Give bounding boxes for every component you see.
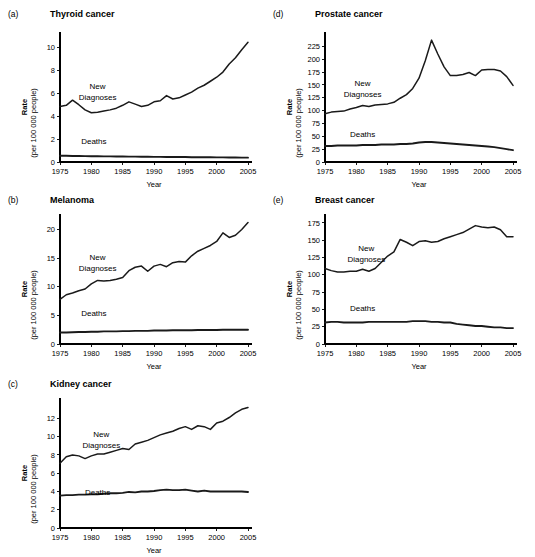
- y-tick-label: 175: [307, 68, 320, 77]
- x-tick-label: 1995: [177, 167, 194, 176]
- y-tick-label: 15: [47, 254, 55, 263]
- panel-letter-c: (c): [8, 379, 18, 389]
- y-tick-label: 50: [312, 132, 320, 141]
- panel-title-d: Prostate cancer: [315, 9, 383, 19]
- data-line-new-diagnoses: [60, 223, 248, 300]
- x-tick-label: 2000: [473, 349, 490, 358]
- y-tick-label: 10: [47, 43, 55, 52]
- data-line-new-diagnoses: [60, 407, 248, 463]
- y-tick-label: 2: [51, 135, 55, 144]
- x-tick-label: 1980: [83, 533, 100, 542]
- x-tick-label: 2005: [240, 167, 257, 176]
- x-tick-label: 1990: [146, 167, 163, 176]
- y-tick-label: 12: [47, 414, 55, 423]
- x-tick-label: 1985: [114, 533, 131, 542]
- x-axis-title: Year: [411, 180, 427, 189]
- panel-letter-d: (d): [273, 9, 284, 19]
- y-axis-title: Rate: [20, 281, 29, 297]
- y-tick-label: 0: [316, 158, 320, 167]
- y-tick-label: 10: [47, 432, 55, 441]
- data-line-new-diagnoses: [60, 42, 248, 112]
- chart-panel-b: (b)Melanoma05101520197519801985199019952…: [8, 194, 262, 382]
- series-label-new-diagnoses-line2: Diagnoses: [347, 255, 385, 264]
- panel-letter-b: (b): [8, 195, 19, 205]
- panel-title-b: Melanoma: [50, 195, 95, 205]
- panel-letter-e: (e): [273, 195, 284, 205]
- y-tick-label: 225: [307, 42, 320, 51]
- y-axis-subtitle: (per 100 000 people): [29, 88, 38, 158]
- y-tick-label: 25: [312, 145, 320, 154]
- data-line-deaths: [325, 142, 513, 150]
- x-tick-label: 1975: [52, 167, 69, 176]
- x-tick-label: 1990: [146, 349, 163, 358]
- data-line-deaths: [325, 321, 513, 328]
- x-tick-label: 2000: [208, 167, 225, 176]
- x-tick-label: 1995: [177, 349, 194, 358]
- panel-title-e: Breast cancer: [315, 195, 375, 205]
- y-tick-label: 0: [51, 340, 55, 349]
- data-line-deaths: [60, 156, 248, 158]
- chart-panel-a: (a)Thyroid cancer02468101975198019851990…: [8, 8, 262, 200]
- x-tick-label: 1980: [83, 349, 100, 358]
- x-tick-label: 1975: [52, 533, 69, 542]
- x-tick-label: 1980: [83, 167, 100, 176]
- y-tick-label: 20: [47, 225, 55, 234]
- y-axis-title: Rate: [285, 281, 294, 297]
- y-tick-label: 150: [307, 81, 320, 90]
- x-tick-label: 2000: [208, 349, 225, 358]
- data-line-deaths: [60, 330, 248, 333]
- y-tick-label: 75: [312, 288, 320, 297]
- y-tick-label: 75: [312, 119, 320, 128]
- series-label-deaths: Deaths: [350, 304, 375, 313]
- series-label-deaths: Deaths: [81, 137, 106, 146]
- y-tick-label: 8: [51, 451, 55, 460]
- series-label-new-diagnoses-line1: New: [355, 79, 371, 88]
- y-tick-label: 25: [312, 322, 320, 331]
- chart-panel-c: (c)Kidney cancer024681012197519801985199…: [8, 378, 262, 557]
- x-tick-label: 2005: [505, 349, 522, 358]
- data-line-new-diagnoses: [325, 40, 513, 114]
- y-axis-subtitle: (per 100 000 people): [294, 88, 303, 158]
- x-tick-label: 1980: [348, 349, 365, 358]
- y-tick-label: 6: [51, 469, 55, 478]
- y-tick-label: 100: [307, 106, 320, 115]
- y-axis-title: Rate: [285, 99, 294, 115]
- x-tick-label: 1985: [114, 349, 131, 358]
- y-axis-title: Rate: [20, 99, 29, 115]
- y-axis-subtitle: (per 100 000 people): [29, 454, 38, 524]
- series-label-new-diagnoses-line1: New: [90, 253, 106, 262]
- x-tick-label: 1975: [317, 167, 334, 176]
- y-tick-label: 200: [307, 55, 320, 64]
- x-tick-label: 1990: [146, 533, 163, 542]
- series-label-new-diagnoses-line2: Diagnoses: [79, 264, 117, 273]
- x-tick-label: 1975: [317, 349, 334, 358]
- x-axis-title: Year: [411, 362, 427, 371]
- x-tick-label: 1990: [411, 349, 428, 358]
- x-tick-label: 1975: [52, 349, 69, 358]
- y-tick-label: 175: [307, 219, 320, 228]
- y-tick-label: 0: [51, 524, 55, 533]
- y-tick-label: 5: [51, 311, 55, 320]
- x-tick-label: 1980: [348, 167, 365, 176]
- data-line-new-diagnoses: [325, 226, 513, 272]
- panel-title-a: Thyroid cancer: [50, 9, 115, 19]
- series-label-new-diagnoses-line1: New: [93, 430, 109, 439]
- x-tick-label: 2000: [473, 167, 490, 176]
- x-tick-label: 2005: [240, 349, 257, 358]
- y-tick-label: 2: [51, 505, 55, 514]
- x-tick-label: 2000: [208, 533, 225, 542]
- series-label-deaths: Deaths: [81, 309, 106, 318]
- panel-letter-a: (a): [8, 9, 19, 19]
- y-tick-label: 4: [51, 487, 55, 496]
- x-axis-title: Year: [146, 546, 162, 555]
- y-tick-label: 125: [307, 93, 320, 102]
- y-tick-label: 0: [316, 340, 320, 349]
- chart-panel-d: (d)Prostate cancer0255075100125150175200…: [273, 8, 527, 200]
- series-label-new-diagnoses-line1: New: [90, 82, 106, 91]
- x-tick-label: 1990: [411, 167, 428, 176]
- y-tick-label: 0: [51, 158, 55, 167]
- y-tick-label: 4: [51, 112, 55, 121]
- chart-panel-e: (e)Breast cancer025507510012515017519751…: [273, 194, 527, 382]
- series-label-new-diagnoses-line2: Diagnoses: [79, 93, 117, 102]
